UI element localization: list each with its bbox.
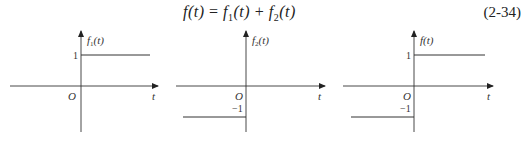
x-label: t — [318, 90, 322, 102]
tick-1: 1 — [406, 50, 411, 61]
tick-neg1: −1 — [232, 103, 243, 114]
graph-f2: f2(t) O −1 t — [176, 31, 325, 132]
figures: f1(t) 1 O t f2(t) O −1 t f(t) 1 O −1 t — [0, 0, 525, 145]
origin-label: O — [68, 90, 76, 102]
y-label: f(t) — [420, 34, 434, 47]
graph-f1: f1(t) 1 O t — [10, 31, 158, 132]
origin-label: O — [403, 90, 411, 102]
origin-label: O — [235, 90, 243, 102]
graph-f: f(t) 1 O −1 t — [343, 31, 493, 132]
tick-1: 1 — [73, 50, 78, 61]
y-label: f2(t) — [252, 34, 269, 48]
x-label: t — [152, 90, 156, 102]
x-label: t — [487, 90, 491, 102]
y-label: f1(t) — [87, 34, 104, 48]
tick-neg1: −1 — [400, 103, 411, 114]
